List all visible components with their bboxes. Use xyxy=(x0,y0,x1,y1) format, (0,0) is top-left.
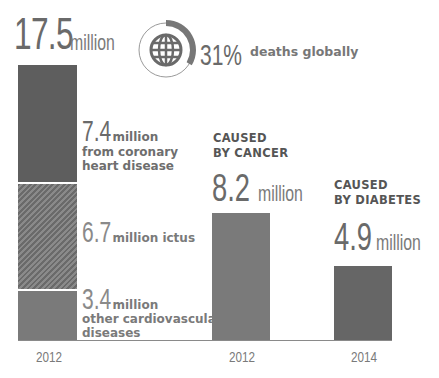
cancer-figure: 8.2 million xyxy=(212,168,321,208)
percent-value: 31% xyxy=(200,38,242,72)
coronary-value: 7.4 xyxy=(82,117,100,145)
x-axis-baseline xyxy=(18,340,392,341)
label-other: 3.4 million other cardiovascular disease… xyxy=(82,286,222,340)
ictus-unit: million ictus xyxy=(112,231,195,245)
coronary-unit: million xyxy=(112,130,158,144)
bar-cardiovascular xyxy=(18,65,77,340)
diabetes-unit: million xyxy=(376,230,421,256)
cancer-caption-line2: BY CANCER xyxy=(213,146,288,161)
bar-cancer xyxy=(212,213,270,340)
cancer-value: 8.2 xyxy=(212,168,242,208)
globe-ring-chart xyxy=(136,20,196,80)
label-coronary: 7.4 million from coronary heart disease xyxy=(82,117,222,173)
cancer-caption-line1: CAUSED xyxy=(213,131,288,146)
segment-other xyxy=(18,291,77,340)
diabetes-caption-line2: BY DIABETES xyxy=(334,193,421,208)
x-tick-2012-cancer: 2012 xyxy=(229,348,255,365)
x-tick-2012-cardio: 2012 xyxy=(36,348,62,365)
x-tick-2014-diabetes: 2014 xyxy=(351,348,377,365)
total-unit: million xyxy=(70,30,115,56)
diabetes-figure: 4.9 million xyxy=(334,217,439,257)
other-unit: million xyxy=(112,298,158,312)
other-value: 3.4 xyxy=(82,286,100,312)
diabetes-caption: CAUSED BY DIABETES xyxy=(334,178,421,208)
diabetes-caption-line1: CAUSED xyxy=(334,178,421,193)
segment-ictus xyxy=(18,184,77,289)
label-ictus: 6.7 million ictus xyxy=(82,218,195,246)
percent-label: deaths globally xyxy=(250,44,358,59)
diabetes-value: 4.9 xyxy=(334,217,361,257)
cancer-caption: CAUSED BY CANCER xyxy=(213,131,288,161)
ictus-value: 6.7 xyxy=(82,218,100,246)
globe-icon xyxy=(136,20,196,80)
total-value: 17.5 xyxy=(14,6,73,62)
coronary-line1: from coronary xyxy=(82,145,222,159)
bar-diabetes xyxy=(334,266,392,340)
other-line2: diseases xyxy=(82,326,222,340)
cancer-unit: million xyxy=(258,181,303,207)
segment-coronary xyxy=(18,65,77,182)
coronary-line2: heart disease xyxy=(82,159,222,173)
